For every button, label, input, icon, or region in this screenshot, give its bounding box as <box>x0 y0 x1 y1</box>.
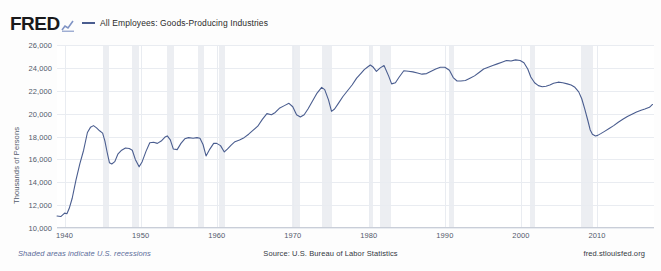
legend-line-swatch <box>82 22 95 24</box>
x-axis-tick-label: 1970 <box>284 231 301 240</box>
x-axis-tick-label: 1960 <box>208 231 225 240</box>
fred-logo: FRED <box>10 14 60 33</box>
series-line-all-employees-goods-producing <box>57 60 652 217</box>
gridline-horizontal <box>57 228 654 229</box>
x-axis-line <box>57 227 654 228</box>
x-axis-tick-label: 1940 <box>56 231 73 240</box>
plot-area <box>57 45 654 228</box>
x-axis-tick-label: 1980 <box>360 231 377 240</box>
x-axis: 19401950196019701980199020002010 <box>57 231 654 243</box>
fred-url: fred.stlouisfed.org <box>583 249 645 258</box>
y-axis-tick-label: 18,000 <box>8 132 52 141</box>
y-axis-tick-label: 26,000 <box>8 41 52 50</box>
chart-header: FRED All Employees: Goods-Producing Indu… <box>0 0 661 38</box>
legend-item-label: All Employees: Goods-Producing Industrie… <box>100 18 268 28</box>
series-layer <box>57 45 654 228</box>
y-axis-tick-label: 24,000 <box>8 63 52 72</box>
y-axis-tick-label: 14,000 <box>8 178 52 187</box>
x-axis-tick-label: 2000 <box>512 231 529 240</box>
x-axis-tick-label: 2010 <box>588 231 605 240</box>
fred-chart-figure: FRED All Employees: Goods-Producing Indu… <box>0 0 661 271</box>
chart-legend: All Employees: Goods-Producing Industrie… <box>82 18 268 28</box>
chart-footer: Shaded areas indicate U.S. recessions So… <box>0 249 661 263</box>
mini-line-chart-icon <box>61 20 75 32</box>
y-axis: Thousands of Persons 10,00012,00014,0001… <box>0 45 52 228</box>
x-axis-tick-label: 1950 <box>132 231 149 240</box>
y-axis-tick-label: 22,000 <box>8 86 52 95</box>
source-note: Source: U.S. Bureau of Labor Statistics <box>0 249 661 258</box>
y-axis-tick-label: 10,000 <box>8 224 52 233</box>
y-axis-tick-label: 16,000 <box>8 155 52 164</box>
x-axis-tick-label: 1990 <box>436 231 453 240</box>
y-axis-tick-label: 12,000 <box>8 201 52 210</box>
y-axis-tick-label: 20,000 <box>8 109 52 118</box>
